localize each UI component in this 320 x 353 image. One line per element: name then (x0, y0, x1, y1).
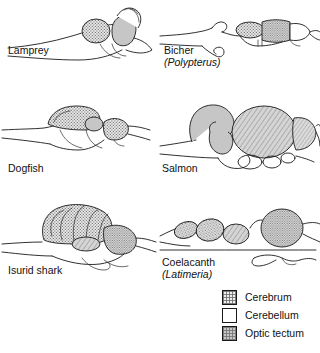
figure-comparative-fish-brains: { "figure": { "title": "Comparative fish… (0, 0, 320, 353)
panel-label-isurid-shark: Isurid shark (8, 264, 62, 276)
panel-isurid-shark: Isurid shark (0, 200, 158, 310)
legend-item-cerebellum: Cerebellum (222, 306, 304, 324)
legend-swatch-optic-tectum (222, 326, 237, 341)
dogfish-brain-drawing (0, 96, 158, 172)
salmon-common-name: Salmon (162, 162, 198, 174)
bicher-optic-tectum (262, 20, 290, 43)
legend-item-optic-tectum: Optic tectum (222, 324, 304, 342)
panel-dogfish: Dogfish (0, 96, 158, 196)
legend-label-optic-tectum: Optic tectum (245, 327, 304, 339)
lamprey-common-name: Lamprey (8, 44, 49, 56)
panel-label-lamprey: Lamprey (8, 44, 49, 56)
lamprey-brain-drawing (0, 0, 158, 70)
dogfish-common-name: Dogfish (8, 162, 44, 174)
lamprey-cerebrum (82, 19, 110, 43)
panel-label-coelacanth: Coelacanth (Latimeria) (162, 256, 215, 280)
bicher-common-name: Bicher (164, 44, 221, 56)
legend-label-cerebellum: Cerebellum (245, 309, 299, 321)
coelacanth-cerebrum (194, 216, 226, 243)
bicher-cerebellum (290, 23, 310, 40)
panel-label-bicher: Bicher (Polypterus) (164, 44, 221, 68)
coelacanth-optic-tectum (261, 209, 303, 247)
legend-item-cerebrum: Cerebrum (222, 288, 304, 306)
salmon-cerebellum (293, 118, 316, 150)
isurid-shark-optic-tectum-left (72, 237, 100, 251)
panel-bicher: Bicher (Polypterus) (158, 0, 320, 96)
panel-lamprey: Lamprey (0, 0, 158, 96)
isurid-shark-common-name: Isurid shark (8, 264, 62, 276)
dogfish-optic-tectum (85, 117, 103, 131)
panel-salmon: Salmon (158, 96, 320, 196)
panel-label-salmon: Salmon (162, 162, 198, 174)
isurid-shark-optic-tectum (104, 225, 137, 254)
salmon-optic-tectum (232, 106, 296, 158)
panel-label-dogfish: Dogfish (8, 162, 44, 174)
legend-swatch-cerebrum (222, 290, 237, 305)
coelacanth-common-name: Coelacanth (162, 256, 215, 268)
coelacanth-optic-tectum-anterior (223, 224, 249, 244)
legend-label-cerebrum: Cerebrum (245, 291, 292, 303)
dogfish-cerebellum (103, 119, 128, 140)
bicher-scientific-name: (Polypterus) (164, 56, 221, 68)
legend: Cerebrum Cerebellum Optic tectum (222, 288, 304, 342)
legend-swatch-cerebellum (222, 308, 237, 323)
coelacanth-scientific-name: (Latimeria) (162, 268, 215, 280)
